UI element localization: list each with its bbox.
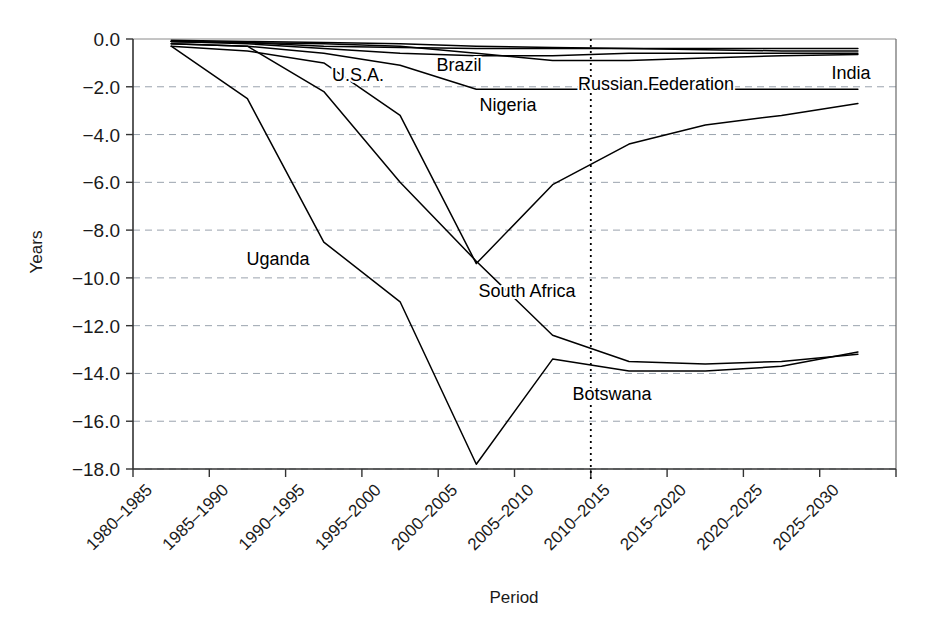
- y-tick-label: −2.0: [82, 77, 120, 98]
- y-tick-label: −4.0: [82, 125, 120, 146]
- y-tick-label: −8.0: [82, 220, 120, 241]
- y-tick-label: −16.0: [72, 411, 120, 432]
- y-tick-label: 0.0: [94, 29, 120, 50]
- y-tick-label: −18.0: [72, 459, 120, 480]
- series-annotation-label: U.S.A.: [332, 65, 384, 85]
- y-tick-label: −14.0: [72, 363, 120, 384]
- series-annotation-label: Russian Federation: [578, 74, 734, 94]
- series-annotation-label: India: [831, 63, 871, 83]
- series-annotation-label: South Africa: [478, 281, 576, 301]
- series-annotation-label: Uganda: [246, 249, 310, 269]
- series-annotation-label: Brazil: [436, 55, 481, 75]
- y-tick-label: −12.0: [72, 316, 120, 337]
- series-annotation-label: Nigeria: [479, 95, 537, 115]
- hiv-life-expectancy-impact-line-chart: 0.0−2.0−4.0−6.0−8.0−10.0−12.0−14.0−16.0−…: [0, 0, 928, 631]
- series-annotation-label: Botswana: [572, 384, 652, 404]
- x-axis-title: Period: [489, 588, 538, 607]
- y-axis-title: Years: [27, 231, 46, 274]
- y-tick-label: −10.0: [72, 268, 120, 289]
- y-tick-label: −6.0: [82, 172, 120, 193]
- chart-figure: 0.0−2.0−4.0−6.0−8.0−10.0−12.0−14.0−16.0−…: [0, 0, 928, 631]
